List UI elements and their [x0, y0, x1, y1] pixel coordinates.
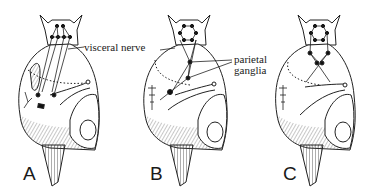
- panel-label-b: B: [150, 163, 163, 185]
- panel-label-a: A: [23, 163, 36, 185]
- visceral-nerve-label: visceral nerve: [84, 42, 145, 53]
- snail-c: [276, 15, 356, 186]
- snail-b: [144, 15, 232, 186]
- parietal-label-line2: ganglia: [234, 65, 266, 76]
- panel-label-c: C: [283, 163, 297, 185]
- snail-diagram: [0, 0, 371, 193]
